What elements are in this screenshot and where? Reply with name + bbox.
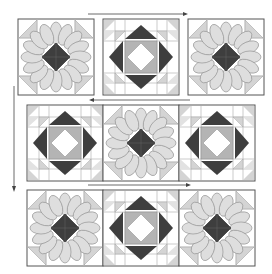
square-in-square-block [103, 190, 179, 266]
row-2 [27, 105, 255, 181]
flower-block [103, 105, 179, 181]
row-1 [18, 19, 264, 95]
arrow-row-1 [88, 12, 188, 16]
square-in-square-block [103, 19, 179, 95]
arrow-row-2 [89, 98, 190, 102]
square-in-square-block [27, 105, 103, 181]
arrow-row-3 [88, 183, 191, 187]
square-in-square-block [179, 105, 255, 181]
flower-block [18, 19, 94, 95]
flower-block [179, 190, 255, 266]
flower-block [27, 190, 103, 266]
flower-block [188, 19, 264, 95]
quilt-diagram [0, 0, 272, 274]
row-3 [27, 190, 255, 266]
arrow-down [12, 86, 16, 192]
